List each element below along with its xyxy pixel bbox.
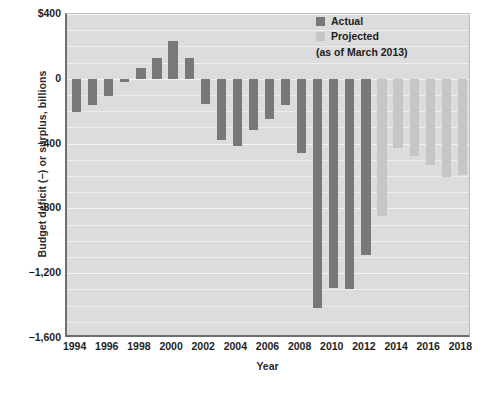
- y-tick-label: −400: [3, 137, 61, 149]
- x-tick-label: 2002: [192, 340, 215, 352]
- bar-2007: [281, 79, 290, 105]
- gridline: [67, 30, 469, 31]
- legend-swatch-projected-icon: [316, 32, 325, 41]
- gridline: [67, 63, 469, 64]
- gridline: [67, 306, 469, 307]
- gridline: [67, 241, 469, 242]
- bar-2015: [410, 79, 419, 156]
- plot-area: [65, 13, 470, 337]
- bar-1994: [72, 79, 81, 112]
- y-axis-tick-labels: $4000−400−800−1,200−1,600: [0, 0, 61, 394]
- gridline: [67, 289, 469, 290]
- bar-1996: [104, 79, 113, 96]
- gridline: [67, 225, 469, 226]
- y-tick-label: $400: [3, 7, 61, 19]
- gridline: [67, 257, 469, 258]
- legend-item-actual: Actual: [316, 14, 408, 29]
- bar-2006: [265, 79, 274, 119]
- gridline: [67, 160, 469, 161]
- legend-swatch-actual-icon: [316, 17, 325, 26]
- chart-legend: Actual Projected (as of March 2013): [316, 14, 408, 60]
- bar-1999: [152, 58, 161, 78]
- legend-note: (as of March 2013): [316, 45, 408, 60]
- bar-2011: [345, 79, 354, 290]
- gridline: [67, 273, 469, 274]
- x-tick-label: 2000: [159, 340, 182, 352]
- x-axis-tick-labels: 1994199619982000200220042006200820102012…: [65, 340, 470, 356]
- bar-2000: [168, 41, 177, 79]
- gridline: [67, 192, 469, 193]
- gridline: [67, 322, 469, 323]
- bar-2010: [329, 79, 338, 289]
- bar-1997: [120, 79, 129, 83]
- bar-2002: [201, 79, 210, 105]
- x-tick-label: 2016: [417, 340, 440, 352]
- legend-label-projected: Projected: [331, 29, 379, 44]
- x-tick-label: 2014: [384, 340, 407, 352]
- gridline: [67, 46, 469, 47]
- x-tick-label: 2008: [288, 340, 311, 352]
- bar-1998: [136, 68, 145, 79]
- x-tick-label: 2018: [449, 340, 472, 352]
- x-tick-label: 1994: [63, 340, 86, 352]
- x-tick-label: 2010: [320, 340, 343, 352]
- bar-2009: [313, 79, 322, 308]
- bar-2016: [426, 79, 435, 166]
- x-axis-title: Year: [65, 360, 470, 372]
- gridline: [67, 208, 469, 209]
- y-tick-label: −1,600: [3, 331, 61, 343]
- bar-2012: [361, 79, 370, 255]
- bar-1995: [88, 79, 97, 106]
- gridline: [67, 176, 469, 177]
- y-tick-label: −800: [3, 201, 61, 213]
- bar-2003: [217, 79, 226, 140]
- x-tick-label: 1996: [95, 340, 118, 352]
- x-tick-label: 2004: [224, 340, 247, 352]
- bar-2013: [377, 79, 386, 216]
- bar-2008: [297, 79, 306, 153]
- y-tick-label: 0: [3, 72, 61, 84]
- bar-2018: [458, 79, 467, 175]
- gridline: [67, 14, 469, 15]
- bar-2001: [185, 58, 194, 79]
- budget-deficit-chart: Budget deficit (−) or surplus, billions …: [0, 0, 488, 394]
- x-tick-label: 2006: [256, 340, 279, 352]
- x-tick-label: 2012: [352, 340, 375, 352]
- bar-2014: [393, 79, 402, 149]
- bar-2017: [442, 79, 451, 177]
- legend-item-projected: Projected: [316, 29, 408, 44]
- bar-2005: [249, 79, 258, 131]
- legend-label-actual: Actual: [331, 14, 363, 29]
- bar-2004: [233, 79, 242, 146]
- y-tick-label: −1,200: [3, 266, 61, 278]
- x-tick-label: 1998: [127, 340, 150, 352]
